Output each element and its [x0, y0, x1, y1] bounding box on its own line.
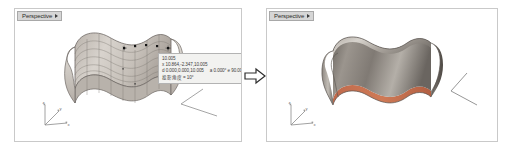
viewport-tab-right[interactable]: Perspective [269, 11, 314, 21]
chevron-right-icon[interactable] [55, 14, 58, 18]
tooltip-delta-values: d 0.000,0.000,10.005 [162, 68, 204, 74]
before-viewport-panel[interactable]: Perspective [14, 8, 242, 142]
viewport-tab-label: Perspective [22, 13, 52, 19]
axis-label-x: x [67, 122, 70, 127]
viewport-tab-label: Perspective [274, 13, 304, 19]
angle-indicator [445, 71, 491, 111]
transition-arrow [244, 66, 266, 86]
chevron-right-icon[interactable] [307, 14, 310, 18]
world-axis-gizmo-right: z y x [285, 99, 319, 129]
world-axis-gizmo-left: z y x [39, 99, 73, 129]
tooltip-line-projection-angle: 投影角度 = 10° [162, 75, 242, 81]
after-viewport-panel[interactable]: Perspective [266, 8, 498, 142]
shaded-solid-model[interactable] [319, 27, 447, 127]
coordinate-tooltip: 10.005 x 10.864,-2.347,10.005 d 0.000,0.… [158, 53, 242, 84]
tooltip-line-delta-angles: d 0.000,0.000,10.005 a 0.000° e 90.000° [162, 68, 242, 74]
tooltip-angle-values: a 0.000° e 90.000° [210, 68, 242, 74]
viewport-tab-left[interactable]: Perspective [17, 11, 62, 21]
axis-label-x: x [313, 122, 316, 127]
leader-angle-line [175, 87, 231, 121]
axis-label-y: y [306, 106, 309, 111]
axis-label-y: y [60, 106, 63, 111]
